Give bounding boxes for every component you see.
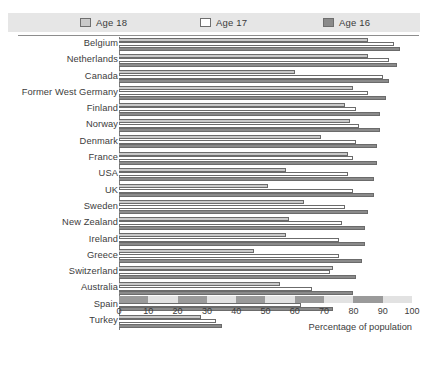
- bar-age18[interactable]: [119, 103, 345, 107]
- bar-age16[interactable]: [119, 193, 374, 197]
- category-label: Ireland: [0, 234, 118, 244]
- bar-age18[interactable]: [119, 152, 348, 156]
- bar-age18[interactable]: [119, 168, 286, 172]
- bar-age18[interactable]: [119, 266, 333, 270]
- bar-age17[interactable]: [119, 91, 368, 95]
- x-axis-tick-labels: 0102030405060708090100: [0, 306, 428, 320]
- legend-label-age-18: Age 18: [96, 17, 127, 28]
- category-label: Belgium: [0, 38, 118, 48]
- legend-item-age-17: Age 17: [200, 17, 247, 28]
- chart-row: Former West Germany: [0, 86, 428, 102]
- bar-age17[interactable]: [119, 238, 339, 242]
- bar-age16[interactable]: [119, 177, 374, 181]
- bar-age16[interactable]: [119, 210, 368, 214]
- chart-row: USA: [0, 167, 428, 183]
- bar-age17[interactable]: [119, 254, 339, 258]
- bar-age16[interactable]: [119, 226, 365, 230]
- bar-group: [119, 54, 428, 69]
- chart-row: Switzerland: [0, 265, 428, 281]
- legend-divider: [18, 35, 419, 36]
- x-axis-tick-label: 90: [378, 306, 388, 316]
- category-label: UK: [0, 185, 118, 195]
- x-axis-tick-label: 80: [348, 306, 358, 316]
- bar-age17[interactable]: [119, 221, 342, 225]
- category-label: Sweden: [0, 201, 118, 211]
- chart-legend: Age 18 Age 17 Age 16: [8, 13, 420, 32]
- chart-row: Norway: [0, 118, 428, 134]
- bar-age16[interactable]: [119, 47, 400, 51]
- x-axis-tick-label: 70: [319, 306, 329, 316]
- legend-label-age-16: Age 16: [339, 17, 370, 28]
- bar-group: [119, 217, 428, 232]
- bar-age17[interactable]: [119, 107, 356, 111]
- bar-group: [119, 249, 428, 264]
- bar-age17[interactable]: [119, 189, 353, 193]
- bar-age16[interactable]: [119, 161, 377, 165]
- category-label: Denmark: [0, 136, 118, 146]
- chart-row: France: [0, 151, 428, 167]
- chart-row: Netherlands: [0, 53, 428, 69]
- bar-age16[interactable]: [119, 128, 380, 132]
- bar-age16[interactable]: [119, 144, 377, 148]
- chart-row: UK: [0, 184, 428, 200]
- chart-row: Canada: [0, 70, 428, 86]
- bar-age17[interactable]: [119, 156, 353, 160]
- bar-age18[interactable]: [119, 70, 295, 74]
- chart-row: Sweden: [0, 200, 428, 216]
- category-label: Canada: [0, 71, 118, 81]
- bar-group: [119, 184, 428, 199]
- x-axis-band-segment: [353, 296, 382, 303]
- bar-age16[interactable]: [119, 291, 353, 295]
- category-label: Norway: [0, 119, 118, 129]
- x-axis-band-segment: [266, 296, 295, 303]
- category-label: France: [0, 152, 118, 162]
- bar-age16[interactable]: [119, 242, 365, 246]
- bar-age17[interactable]: [119, 287, 312, 291]
- bar-age17[interactable]: [119, 58, 389, 62]
- bar-age16[interactable]: [119, 63, 397, 67]
- bar-age17[interactable]: [119, 205, 345, 209]
- bar-age16[interactable]: [119, 112, 380, 116]
- bar-age16[interactable]: [119, 96, 386, 100]
- chart-row: Ireland: [0, 233, 428, 249]
- bar-age16[interactable]: [119, 324, 222, 328]
- legend-label-age-17: Age 17: [216, 17, 247, 28]
- bar-age17[interactable]: [119, 172, 348, 176]
- bar-age18[interactable]: [119, 135, 321, 139]
- x-axis-tick-label: 0: [116, 306, 121, 316]
- legend-swatch-age-17-icon: [200, 18, 211, 27]
- category-label: Switzerland: [0, 266, 118, 276]
- bar-age17[interactable]: [119, 75, 383, 79]
- bar-group: [119, 282, 428, 297]
- bar-age18[interactable]: [119, 184, 268, 188]
- chart-row: Greece: [0, 249, 428, 265]
- bar-chart-plot-area: BelgiumNetherlandsCanadaFormer West Germ…: [0, 37, 428, 330]
- bar-group: [119, 119, 428, 134]
- bar-age16[interactable]: [119, 275, 356, 279]
- category-label: Finland: [0, 103, 118, 113]
- x-axis-band: [119, 296, 412, 303]
- bar-age17[interactable]: [119, 124, 359, 128]
- bar-age17[interactable]: [119, 42, 394, 46]
- bar-age16[interactable]: [119, 259, 362, 263]
- legend-swatch-age-18-icon: [80, 18, 91, 27]
- bar-group: [119, 103, 428, 118]
- x-axis-tick-label: 20: [173, 306, 183, 316]
- bar-age18[interactable]: [119, 38, 368, 42]
- bar-age18[interactable]: [119, 86, 353, 90]
- bar-age18[interactable]: [119, 200, 304, 204]
- bar-age18[interactable]: [119, 217, 289, 221]
- bar-group: [119, 168, 428, 183]
- bar-age17[interactable]: [119, 270, 330, 274]
- bar-age17[interactable]: [119, 140, 356, 144]
- x-axis-band-segment: [119, 296, 148, 303]
- bar-age18[interactable]: [119, 233, 286, 237]
- category-label: Netherlands: [0, 54, 118, 64]
- x-axis-tick-label: 100: [404, 306, 419, 316]
- x-axis-tick-label: 50: [260, 306, 270, 316]
- bar-age16[interactable]: [119, 79, 389, 83]
- bar-age18[interactable]: [119, 249, 254, 253]
- bar-age18[interactable]: [119, 119, 350, 123]
- bar-age18[interactable]: [119, 282, 280, 286]
- bar-age18[interactable]: [119, 54, 368, 58]
